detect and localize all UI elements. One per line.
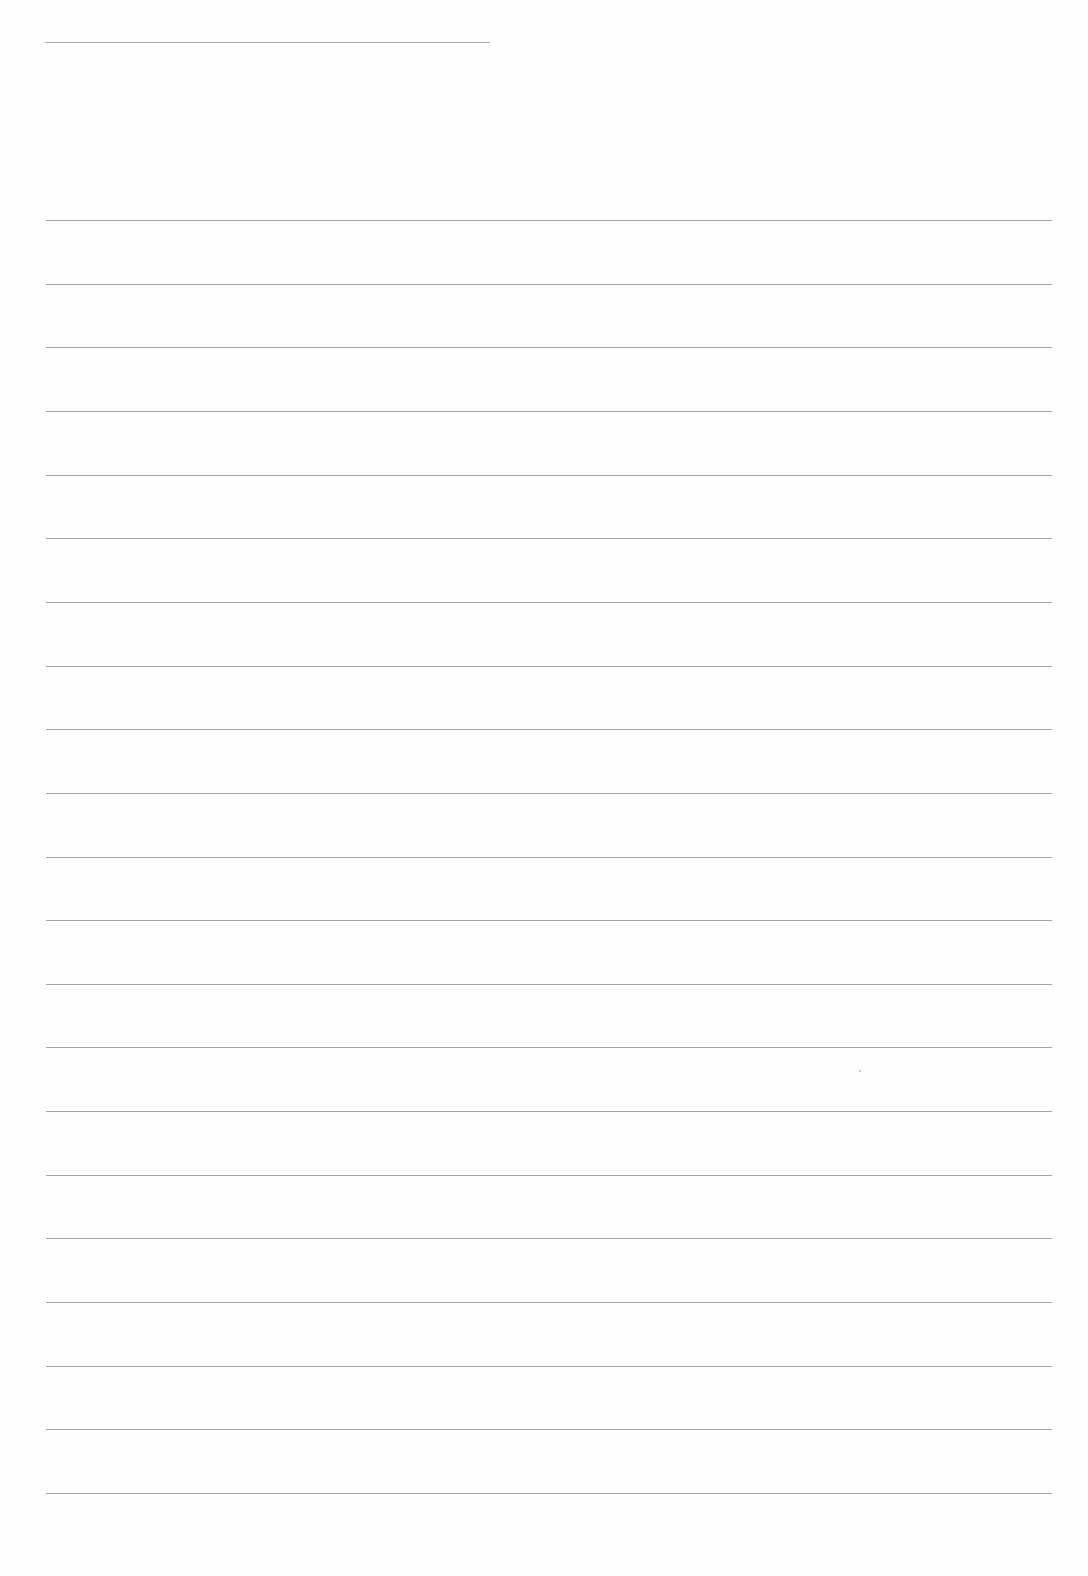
ruled-line: [46, 1238, 1052, 1239]
ruled-line: [46, 1111, 1052, 1112]
paper-speck: [859, 1070, 861, 1072]
ruled-line: [46, 284, 1052, 285]
ruled-line: [46, 920, 1052, 921]
lined-paper-sheet: [0, 0, 1088, 1576]
ruled-line: [46, 475, 1052, 476]
header-line: [45, 42, 490, 43]
ruled-line: [46, 538, 1052, 539]
ruled-line: [46, 1493, 1052, 1494]
ruled-line: [46, 602, 1052, 603]
ruled-line: [46, 1302, 1052, 1303]
ruled-line: [46, 1429, 1052, 1430]
ruled-line: [46, 1047, 1052, 1048]
ruled-line: [46, 857, 1052, 858]
ruled-line: [46, 729, 1052, 730]
ruled-line: [46, 411, 1052, 412]
ruled-line: [46, 1366, 1052, 1367]
ruled-line: [46, 666, 1052, 667]
ruled-line: [46, 347, 1052, 348]
ruled-line: [46, 984, 1052, 985]
ruled-line: [46, 1175, 1052, 1176]
ruled-line: [46, 793, 1052, 794]
ruled-line: [46, 220, 1052, 221]
